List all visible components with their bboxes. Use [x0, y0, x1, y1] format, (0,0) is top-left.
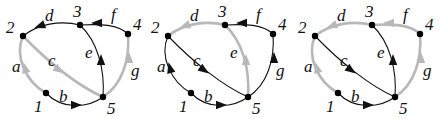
node-dot [20, 33, 26, 39]
edge-label: e [85, 43, 93, 62]
node-1: 1 [179, 90, 194, 116]
node-label: 3 [72, 2, 82, 21]
node-4: 4 [417, 15, 434, 37]
node-label: 1 [34, 97, 43, 116]
node-dot [245, 94, 251, 100]
edge-label: e [377, 43, 385, 62]
node-5: 5 [100, 94, 116, 118]
node-2: 2 [151, 18, 171, 39]
node-1: 1 [34, 90, 49, 116]
node-dot [417, 31, 423, 37]
edge-d: d [315, 6, 372, 36]
node-4: 4 [125, 15, 142, 37]
edge-b: b [338, 87, 395, 109]
edge-b: b [46, 87, 103, 109]
node-dot [369, 22, 375, 28]
node-1: 1 [326, 90, 341, 116]
edge-label: b [59, 87, 68, 106]
edge-line [103, 34, 128, 97]
edge-a: a [304, 36, 338, 93]
arrowhead-icon [363, 101, 374, 109]
node-label: 3 [364, 2, 374, 21]
arrowhead-icon [164, 61, 175, 74]
edge-line [395, 34, 420, 97]
edge-label: f [256, 5, 263, 24]
node-5: 5 [245, 94, 261, 118]
edge-label: c [340, 51, 348, 70]
edge-label: a [12, 57, 21, 76]
arrowhead-icon [236, 19, 247, 27]
node-dot [312, 33, 318, 39]
edge-d: d [168, 6, 225, 36]
node-label: 4 [133, 15, 142, 34]
node-dot [100, 94, 106, 100]
edge-label: b [351, 87, 360, 106]
edge-label: c [193, 51, 201, 70]
node-dot [188, 90, 194, 96]
edge-label: e [230, 43, 238, 62]
node-label: 4 [278, 15, 287, 34]
edge-g: g [248, 34, 285, 97]
node-dot [77, 22, 83, 28]
edge-label: b [204, 87, 213, 106]
arrowhead-icon [91, 19, 102, 27]
node-label: 5 [252, 99, 261, 118]
node-label: 2 [151, 18, 160, 37]
node-label: 1 [179, 97, 188, 116]
node-4: 4 [270, 15, 287, 37]
arrowhead-icon [71, 101, 82, 109]
edge-label: d [337, 6, 346, 25]
edge-label: a [157, 57, 166, 76]
node-dot [270, 31, 276, 37]
panel-2: abcdefg12345 [151, 2, 287, 118]
edge-f: f [372, 5, 420, 34]
node-label: 1 [326, 97, 335, 116]
panel-3: abcdefg12345 [298, 2, 434, 118]
edge-label: d [190, 6, 199, 25]
edge-a: a [12, 36, 46, 93]
node-label: 2 [298, 18, 307, 37]
edge-line [248, 34, 273, 97]
edge-f: f [225, 5, 273, 34]
edge-label: f [111, 5, 118, 24]
node-label: 2 [6, 18, 15, 37]
edge-g: g [395, 34, 432, 97]
edge-d: d [23, 6, 80, 36]
edge-label: d [45, 6, 54, 25]
node-dot [335, 90, 341, 96]
edge-b: b [191, 87, 248, 109]
node-dot [222, 22, 228, 28]
node-2: 2 [6, 18, 26, 39]
edge-g: g [103, 34, 140, 97]
edge-label: a [304, 57, 313, 76]
node-label: 5 [399, 99, 408, 118]
node-dot [125, 31, 131, 37]
node-dot [392, 94, 398, 100]
node-2: 2 [298, 18, 318, 39]
edge-label: g [423, 61, 432, 80]
node-label: 3 [217, 2, 227, 21]
panel-1: abcdefg12345 [6, 2, 142, 118]
graph-diagram: abcdefg12345abcdefg12345abcdefg12345 [0, 0, 445, 119]
edge-label: f [403, 5, 410, 24]
node-label: 4 [425, 15, 434, 34]
edge-f: f [80, 5, 128, 34]
edge-label: g [131, 61, 140, 80]
edge-label: g [276, 61, 285, 80]
arrowhead-icon [216, 101, 227, 109]
edge-a: a [157, 36, 191, 93]
edge-label: c [48, 51, 56, 70]
node-5: 5 [392, 94, 408, 118]
node-label: 5 [107, 99, 116, 118]
node-dot [43, 90, 49, 96]
node-dot [165, 33, 171, 39]
